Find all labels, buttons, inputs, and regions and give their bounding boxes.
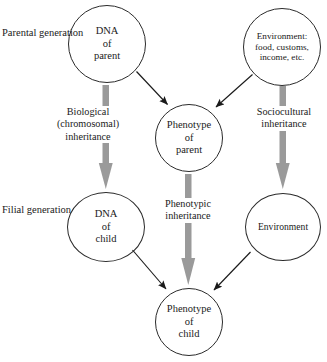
generation-label-parental: Parental generation (2, 27, 68, 40)
edge-label-biological-line1: Biological (40, 106, 136, 118)
node-phenotype-parent: Phenotype of parent (155, 104, 223, 172)
node-phenotype-child-line3: child (179, 328, 200, 340)
edge-dna-parent-to-phenotype-parent (137, 72, 168, 105)
edge-label-biological-inheritance: Biological (chromosomal) inheritance (40, 106, 136, 143)
edge-label-phenotypic-inheritance: Phenotypic inheritance (147, 198, 229, 223)
generation-label-filial-line1: Filial (2, 204, 24, 215)
edge-label-biological-line2: (chromosomal) (40, 118, 136, 130)
node-dna-child-line2: of (102, 221, 111, 233)
node-dna-parent-line2: of (103, 38, 112, 50)
generation-label-filial-line2: generation (27, 204, 71, 215)
node-phenotype-child-line1: Phenotype (167, 303, 211, 315)
edge-label-sociocultural-line1: Sociocultural (241, 106, 327, 118)
edge-env-child-to-phenotype-child (214, 252, 251, 290)
node-environment-child: Environment (245, 193, 321, 261)
edge-env-parent-to-env-child (276, 86, 290, 189)
node-phenotype-parent-line1: Phenotype (167, 119, 211, 131)
edge-label-sociocultural-line2: inheritance (241, 118, 327, 130)
node-dna-parent-line3: parent (94, 50, 120, 62)
node-dna-parent: DNA of parent (68, 5, 146, 83)
node-environment-parent-line2: food, customs, (255, 42, 309, 53)
node-environment-parent: Environment: food, customs, income, etc. (243, 8, 321, 86)
node-environment-child-line1: Environment (258, 221, 308, 232)
node-dna-parent-line1: DNA (96, 25, 119, 37)
edge-phenotype-parent-to-phenotype-child (181, 174, 195, 285)
generation-label-filial: Filial generation (2, 204, 68, 217)
node-phenotype-parent-line2: of (185, 132, 194, 144)
node-dna-child-line1: DNA (95, 208, 118, 220)
node-phenotype-child: Phenotype of child (155, 288, 223, 356)
node-dna-child-line3: child (96, 233, 117, 245)
generation-label-parental-line1: Parental (2, 27, 36, 38)
inheritance-diagram: Parental generation Filial generation DN… (0, 0, 327, 362)
edge-label-phenotypic-line1: Phenotypic (147, 198, 229, 210)
node-environment-parent-line3: income, etc. (260, 52, 305, 63)
edge-label-phenotypic-line2: inheritance (147, 210, 229, 222)
node-environment-parent-line1: Environment: (257, 31, 308, 42)
edge-dna-child-to-phenotype-child (133, 250, 167, 289)
edge-env-parent-to-phenotype-parent (216, 75, 253, 108)
node-phenotype-parent-line3: parent (176, 144, 202, 156)
edge-label-biological-line3: inheritance (40, 131, 136, 143)
node-dna-child: DNA of child (67, 192, 145, 262)
edge-label-sociocultural-inheritance: Sociocultural inheritance (241, 106, 327, 131)
node-phenotype-child-line2: of (185, 316, 194, 328)
